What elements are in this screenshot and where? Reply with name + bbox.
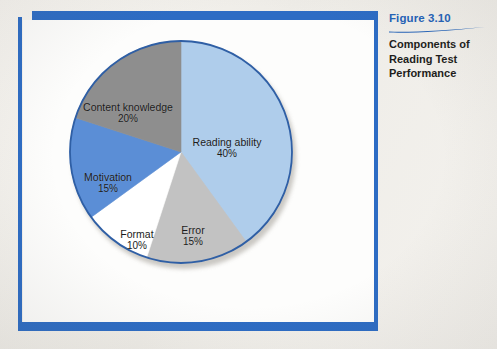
slice-label-value: 10% xyxy=(106,240,168,252)
slice-label-reading-ability: Reading ability 40% xyxy=(172,136,282,160)
swoosh-underline-icon xyxy=(388,26,488,33)
slice-label-name: Reading ability xyxy=(172,136,282,148)
frame-bar-bottom xyxy=(18,322,378,331)
slice-label-value: 15% xyxy=(166,236,220,248)
slice-label-name: Motivation xyxy=(65,171,151,183)
frame-bar-left xyxy=(18,17,22,327)
slice-label-value: 15% xyxy=(65,183,151,195)
slice-label-name: Content knowledge xyxy=(64,101,192,113)
frame-bar-right xyxy=(374,14,378,326)
slice-label-name: Format xyxy=(106,228,168,240)
slice-label-content-knowledge: Content knowledge 20% xyxy=(64,101,192,125)
slice-label-name: Error xyxy=(166,224,220,236)
frame-bar-top xyxy=(32,11,378,20)
slice-label-format: Format 10% xyxy=(106,228,168,252)
slice-label-value: 40% xyxy=(172,148,282,160)
slice-label-motivation: Motivation 15% xyxy=(65,171,151,195)
figure-number: Figure 3.10 xyxy=(389,12,493,25)
figure-page: Reading ability 40% Error 15% Format 10%… xyxy=(0,0,497,349)
figure-title-line-3: Performance xyxy=(389,66,493,81)
slice-label-value: 20% xyxy=(64,113,192,125)
pie-chart: Reading ability 40% Error 15% Format 10%… xyxy=(52,31,322,306)
figure-title-line-1: Components of xyxy=(389,37,493,52)
slice-label-error: Error 15% xyxy=(166,224,220,248)
figure-title: Components of Reading Test Performance xyxy=(389,37,493,81)
figure-title-line-2: Reading Test xyxy=(389,52,493,67)
figure-caption: Figure 3.10 Components of Reading Test P… xyxy=(389,12,493,81)
